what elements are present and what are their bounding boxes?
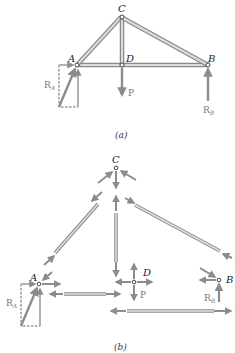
reaction-ra-arrow (59, 69, 75, 107)
member-ac-free (44, 192, 102, 265)
joint-d-free (132, 280, 136, 284)
label-c-free: C (112, 154, 120, 165)
truss-figure: C A D B P RB RA (a) C (0, 0, 235, 353)
label-rb: RB (203, 105, 215, 116)
label-a-free: A (29, 272, 37, 283)
label-b: B (207, 53, 215, 64)
joint-d (120, 63, 124, 67)
label-rb-free: RB (204, 293, 216, 304)
label-c: C (118, 3, 126, 14)
caption-a: (a) (115, 130, 128, 140)
label-a: A (67, 53, 75, 64)
caption-b: (b) (114, 342, 127, 352)
reaction-ra-free (21, 284, 40, 326)
label-p: P (128, 88, 134, 98)
label-ra: RA (44, 80, 56, 91)
member-ac (77, 17, 121, 65)
label-ra-free: RA (6, 298, 18, 309)
label-d-free: D (142, 267, 151, 278)
label-b-free: B (225, 274, 233, 285)
joint-c (120, 15, 124, 19)
joint-a-free (37, 282, 41, 286)
reaction-ra (59, 65, 78, 107)
joint-b-free (217, 278, 221, 282)
joint-c-free (114, 166, 118, 170)
truss-exploded: C A (6, 154, 233, 326)
truss-assembled: C A D B P RB RA (44, 3, 215, 116)
label-d: D (125, 53, 134, 64)
label-p-free: P (140, 290, 146, 300)
member-cb-free (125, 198, 232, 258)
member-cb (121, 17, 208, 65)
joint-a (75, 63, 79, 67)
